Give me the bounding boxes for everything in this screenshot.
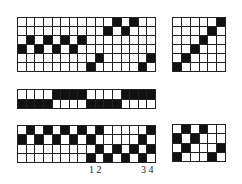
empty-cell [53, 54, 61, 62]
empty-cell [35, 90, 43, 99]
filled-cell [61, 90, 69, 99]
empty-cell [130, 54, 138, 62]
empty-cell [147, 45, 155, 53]
empty-cell [173, 18, 181, 26]
empty-cell [139, 126, 147, 134]
empty-cell [70, 63, 78, 71]
empty-cell [87, 45, 95, 53]
empty-cell [87, 18, 95, 26]
filled-cell [96, 100, 104, 109]
empty-cell [27, 135, 35, 143]
empty-cell [35, 27, 43, 35]
empty-cell [147, 36, 155, 44]
filled-cell [173, 153, 181, 161]
filled-cell [139, 154, 147, 162]
empty-cell [122, 135, 130, 143]
empty-cell [173, 45, 181, 53]
empty-cell [27, 18, 35, 26]
empty-cell [61, 54, 69, 62]
empty-cell [182, 45, 190, 53]
filled-cell [139, 135, 147, 143]
empty-cell [208, 134, 216, 142]
empty-cell [35, 145, 43, 153]
empty-cell [78, 135, 86, 143]
empty-cell [78, 154, 86, 162]
empty-cell [182, 153, 190, 161]
filled-cell [104, 154, 112, 162]
empty-cell [87, 145, 95, 153]
empty-cell [139, 54, 147, 62]
filled-cell [44, 36, 52, 44]
empty-cell [78, 45, 86, 53]
empty-cell [130, 154, 138, 162]
filled-cell [61, 36, 69, 44]
filled-cell [191, 134, 199, 142]
empty-cell [44, 54, 52, 62]
empty-cell [61, 100, 69, 109]
empty-cell [18, 54, 26, 62]
empty-cell [182, 36, 190, 44]
empty-cell [208, 36, 216, 44]
empty-cell [35, 154, 43, 162]
filled-cell [87, 100, 95, 109]
empty-cell [87, 27, 95, 35]
empty-cell [104, 63, 112, 71]
empty-cell [113, 63, 121, 71]
empty-cell [18, 145, 26, 153]
empty-cell [70, 126, 78, 134]
empty-cell [130, 126, 138, 134]
empty-cell [35, 18, 43, 26]
filled-cell [70, 45, 78, 53]
empty-cell [70, 27, 78, 35]
filled-cell [130, 90, 138, 99]
empty-cell [53, 63, 61, 71]
empty-cell [217, 27, 225, 35]
drawdown-grid [17, 125, 156, 163]
empty-cell [35, 54, 43, 62]
column-label-3-4: 3 4 [141, 165, 154, 175]
filled-cell [122, 154, 130, 162]
filled-cell [53, 90, 61, 99]
filled-cell [18, 45, 26, 53]
filled-cell [191, 45, 199, 53]
filled-cell [122, 90, 130, 99]
empty-cell [53, 154, 61, 162]
empty-cell [139, 27, 147, 35]
empty-cell [78, 63, 86, 71]
empty-cell [191, 144, 199, 152]
empty-cell [27, 154, 35, 162]
filled-cell [70, 90, 78, 99]
empty-cell [44, 18, 52, 26]
threading-grid [17, 17, 156, 72]
empty-cell [113, 126, 121, 134]
empty-cell [104, 36, 112, 44]
empty-cell [87, 126, 95, 134]
empty-cell [139, 45, 147, 53]
empty-cell [96, 90, 104, 99]
empty-cell [61, 27, 69, 35]
empty-cell [87, 36, 95, 44]
empty-cell [200, 144, 208, 152]
filled-cell [53, 135, 61, 143]
filled-cell [147, 126, 155, 134]
filled-cell [44, 100, 52, 109]
empty-cell [87, 54, 95, 62]
empty-cell [130, 135, 138, 143]
empty-cell [27, 90, 35, 99]
empty-cell [53, 27, 61, 35]
empty-cell [130, 27, 138, 35]
empty-cell [217, 45, 225, 53]
empty-cell [87, 90, 95, 99]
filled-cell [122, 27, 130, 35]
empty-cell [61, 18, 69, 26]
filled-cell [96, 145, 104, 153]
empty-cell [191, 54, 199, 62]
empty-cell [70, 36, 78, 44]
empty-cell [217, 125, 225, 133]
filled-cell [27, 126, 35, 134]
empty-cell [191, 63, 199, 71]
filled-cell [139, 90, 147, 99]
filled-cell [78, 90, 86, 99]
empty-cell [208, 144, 216, 152]
empty-cell [182, 134, 190, 142]
